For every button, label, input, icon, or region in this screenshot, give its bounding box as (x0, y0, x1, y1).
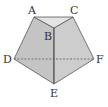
label-f: F (96, 53, 104, 66)
label-d: D (3, 53, 12, 66)
label-a: A (27, 4, 37, 17)
face-abed (14, 17, 54, 84)
label-c: C (70, 4, 78, 17)
label-e: E (50, 87, 58, 100)
label-b: B (44, 30, 52, 43)
face-bcfe (54, 17, 94, 84)
geometry-diagram: A C B D F E (0, 0, 108, 107)
